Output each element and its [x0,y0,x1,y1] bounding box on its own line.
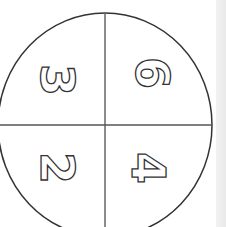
quadrant-top-left: 3 [30,64,84,96]
digit-6: 6 [125,57,179,89]
digit-4: 4 [121,152,175,184]
quadrant-top-right: 6 [125,57,179,89]
digit-3: 3 [30,64,84,96]
digit-2: 2 [30,152,84,184]
quadrant-wheel: 3 6 2 4 [0,0,226,227]
circle-outline [0,13,212,227]
quadrant-bottom-left: 2 [30,152,84,184]
quadrant-bottom-right: 4 [121,152,175,184]
